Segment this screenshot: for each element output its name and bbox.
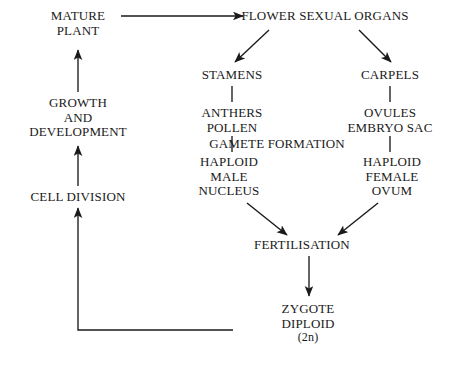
node-mature-plant-line1: MATURE [51, 9, 105, 24]
node-gamete-formation: GAMETE FORMATION [209, 137, 345, 152]
node-mature-plant: MATURE PLANT [51, 9, 105, 38]
node-haploid-male-nucleus: HAPLOID MALE NUCLEUS [199, 155, 260, 199]
node-flower-sexual-organs: FLOWER SEXUAL ORGANS [241, 9, 408, 24]
reproduction-flowchart: MATURE PLANT FLOWER SEXUAL ORGANS STAMEN… [0, 0, 456, 365]
edge-flower-organs-to-stamens [235, 30, 269, 62]
node-growth-and-development: GROWTH AND DEVELOPMENT [29, 96, 127, 140]
node-gamete-formation-line1: GAMETE FORMATION [209, 137, 345, 152]
edge-haploid-female-to-fertilisation [338, 203, 378, 235]
node-fertilisation: FERTILISATION [254, 238, 350, 253]
node-anthers-pollen-line1: ANTHERS [202, 106, 263, 121]
node-cell-division-line1: CELL DIVISION [31, 190, 126, 205]
edge-flower-organs-to-carpels [359, 30, 391, 62]
edge-zygote-to-cell-division-feedback [78, 208, 233, 330]
node-haploid-female-ovum-line3: OVUM [363, 184, 421, 199]
node-stamens: STAMENS [202, 68, 263, 83]
node-zygote-diploid-line3: (2n) [281, 331, 334, 344]
node-haploid-female-ovum: HAPLOID FEMALE OVUM [363, 155, 421, 199]
node-ovules-embryo-sac-line1: OVULES [348, 106, 433, 121]
node-haploid-male-nucleus-line1: HAPLOID [199, 155, 260, 170]
node-mature-plant-line2: PLANT [51, 24, 105, 39]
node-carpels-line1: CARPELS [361, 68, 419, 83]
node-zygote-diploid-line1: ZYGOTE [281, 302, 334, 317]
node-growth-and-development-line1: GROWTH [29, 96, 127, 111]
node-growth-and-development-line2: AND [29, 111, 127, 126]
node-anthers-pollen-line2: POLLEN [202, 121, 263, 136]
node-stamens-line1: STAMENS [202, 68, 263, 83]
edge-haploid-male-to-fertilisation [247, 203, 287, 235]
node-flower-sexual-organs-line1: FLOWER SEXUAL ORGANS [241, 9, 408, 24]
node-growth-and-development-line3: DEVELOPMENT [29, 125, 127, 140]
node-fertilisation-line1: FERTILISATION [254, 238, 350, 253]
node-ovules-embryo-sac: OVULES EMBRYO SAC [348, 106, 433, 135]
node-zygote-diploid-line2: DIPLOID [281, 317, 334, 332]
node-ovules-embryo-sac-line2: EMBRYO SAC [348, 121, 433, 136]
node-haploid-male-nucleus-line2: MALE [199, 170, 260, 185]
node-cell-division: CELL DIVISION [31, 190, 126, 205]
node-carpels: CARPELS [361, 68, 419, 83]
node-anthers-pollen: ANTHERS POLLEN [202, 106, 263, 135]
node-zygote-diploid: ZYGOTE DIPLOID (2n) [281, 302, 334, 345]
node-haploid-male-nucleus-line3: NUCLEUS [199, 184, 260, 199]
node-haploid-female-ovum-line1: HAPLOID [363, 155, 421, 170]
node-haploid-female-ovum-line2: FEMALE [363, 170, 421, 185]
